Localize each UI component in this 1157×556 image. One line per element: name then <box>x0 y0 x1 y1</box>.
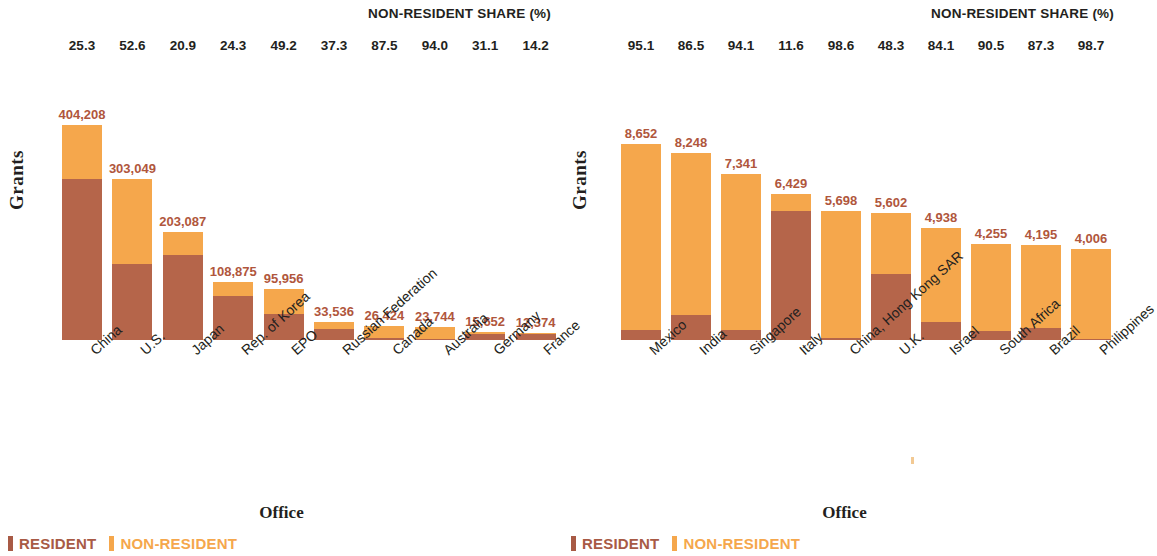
bar-mexico: 8,652 <box>621 144 661 340</box>
bar-segment-resident <box>62 179 102 340</box>
legend-swatch-resident-icon <box>8 536 13 551</box>
bar-segment-non-resident <box>771 194 811 211</box>
bar-value-label: 7,341 <box>725 156 758 171</box>
x-axis-category-labels-right: MexicoIndiaSingaporeItalyChina, Hong Kon… <box>563 344 1126 464</box>
legend-label-resident: RESIDENT <box>582 535 659 552</box>
bar-segment-non-resident <box>213 282 253 296</box>
stacked-bar <box>971 244 1011 340</box>
bar-value-label: 108,875 <box>210 264 257 279</box>
bar-value-label: 8,248 <box>675 135 708 150</box>
legend-right: RESIDENT NON-RESIDENT <box>571 533 800 553</box>
plot-area-left: 404,208303,049203,087108,87595,95633,536… <box>0 0 563 340</box>
stacked-bar <box>112 179 152 340</box>
x-axis-title-right: Office <box>563 503 1126 523</box>
legend-item-resident-left: RESIDENT <box>8 535 96 552</box>
bar-value-label: 4,938 <box>925 210 958 225</box>
legend-swatch-non-resident-icon <box>109 536 114 551</box>
bar-india: 8,248 <box>671 153 711 340</box>
chart-panel-left: NON-RESIDENT SHARE (%) 25.352.620.924.34… <box>0 0 563 556</box>
legend-label-resident: RESIDENT <box>19 535 96 552</box>
bar-value-label: 33,536 <box>314 304 354 319</box>
legend-left: RESIDENT NON-RESIDENT <box>8 533 237 553</box>
bar-value-label: 6,429 <box>775 176 808 191</box>
bar-segment-non-resident <box>62 125 102 179</box>
legend-swatch-resident-icon <box>571 536 576 551</box>
bar-segment-non-resident <box>163 232 203 255</box>
stacked-bar <box>621 144 661 340</box>
stacked-bar <box>1071 249 1111 340</box>
stacked-bar <box>163 232 203 340</box>
bar-value-label: 8,652 <box>625 126 658 141</box>
bar-value-label: 4,006 <box>1075 231 1108 246</box>
x-axis-category-labels-left: ChinaU.S.JapanRep. of KoreaEPORussian Fe… <box>0 344 563 464</box>
bar-japan: 203,087 <box>163 232 203 340</box>
stacked-bar <box>721 174 761 340</box>
bar-value-label: 404,208 <box>59 107 106 122</box>
bar-segment-non-resident <box>871 213 911 274</box>
bar-segment-resident <box>163 255 203 340</box>
stacked-bar <box>821 211 861 340</box>
bar-china-hong-kong-sar: 5,698 <box>821 211 861 340</box>
legend-label-non-resident: NON-RESIDENT <box>683 535 800 552</box>
plot-area-right: 8,6528,2487,3416,4295,6985,6024,9384,255… <box>563 0 1126 340</box>
bar-philippines: 4,006 <box>1071 249 1111 340</box>
stacked-bar <box>671 153 711 340</box>
bar-value-label: 203,087 <box>159 214 206 229</box>
bar-value-label: 303,049 <box>109 161 156 176</box>
chart-panel-right: NON-RESIDENT SHARE (%) 95.186.594.111.69… <box>563 0 1126 556</box>
bar-segment-non-resident <box>621 144 661 330</box>
bar-segment-non-resident <box>971 244 1011 331</box>
x-axis-title-left: Office <box>0 503 563 523</box>
legend-label-non-resident: NON-RESIDENT <box>120 535 237 552</box>
bar-segment-non-resident <box>314 322 354 329</box>
bar-segment-non-resident <box>112 179 152 264</box>
bar-segment-non-resident <box>671 153 711 315</box>
legend-swatch-non-resident-icon <box>672 536 677 551</box>
bar-segment-non-resident <box>721 174 761 330</box>
bar-u-s: 303,049 <box>112 179 152 340</box>
bar-singapore: 7,341 <box>721 174 761 340</box>
bar-south-africa: 4,255 <box>971 244 1011 340</box>
legend-item-non-resident-left: NON-RESIDENT <box>109 535 237 552</box>
bar-china: 404,208 <box>62 125 102 340</box>
legend-item-resident-right: RESIDENT <box>571 535 659 552</box>
bar-value-label: 5,602 <box>875 195 908 210</box>
bar-value-label: 4,255 <box>975 226 1008 241</box>
bar-segment-non-resident <box>1071 249 1111 339</box>
bar-segment-non-resident <box>821 211 861 338</box>
legend-item-non-resident-right: NON-RESIDENT <box>672 535 800 552</box>
scan-artifact-speck <box>911 457 914 464</box>
stacked-bar <box>62 125 102 340</box>
bar-value-label: 95,956 <box>264 271 304 286</box>
bar-value-label: 4,195 <box>1025 227 1058 242</box>
bar-value-label: 5,698 <box>825 193 858 208</box>
